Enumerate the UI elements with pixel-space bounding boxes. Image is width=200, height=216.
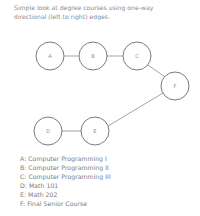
node-label-c: C xyxy=(135,53,139,59)
graph-node-c[interactable]: C xyxy=(123,42,151,70)
graph-figure: Simple look at degree courses using one-… xyxy=(0,0,200,216)
graph-edge-e-f xyxy=(108,93,163,126)
graph-node-b[interactable]: B xyxy=(79,42,107,70)
node-label-d: D xyxy=(46,128,50,134)
node-label-e: E xyxy=(93,128,96,134)
legend-item-c: C: Computer Programming III xyxy=(20,173,196,182)
graph-edges xyxy=(62,56,165,131)
graph-nodes: ABCFDE xyxy=(34,42,189,145)
node-label-a: A xyxy=(48,53,52,59)
node-label-f: F xyxy=(174,83,177,89)
legend: A: Computer Programming IB: Computer Pro… xyxy=(20,155,196,208)
legend-item-b: B: Computer Programming II xyxy=(20,164,196,173)
graph-node-e[interactable]: E xyxy=(81,117,109,145)
graph-edge-c-f xyxy=(148,65,165,77)
legend-item-f: F: Final Senior Course xyxy=(20,200,196,209)
graph-node-d[interactable]: D xyxy=(34,117,62,145)
graph-node-f[interactable]: F xyxy=(161,72,189,100)
node-label-b: B xyxy=(91,53,95,59)
legend-item-d: D: Math 101 xyxy=(20,182,196,191)
graph-node-a[interactable]: A xyxy=(36,42,64,70)
legend-item-e: E: Math 202 xyxy=(20,191,196,200)
legend-item-a: A: Computer Programming I xyxy=(20,155,196,164)
